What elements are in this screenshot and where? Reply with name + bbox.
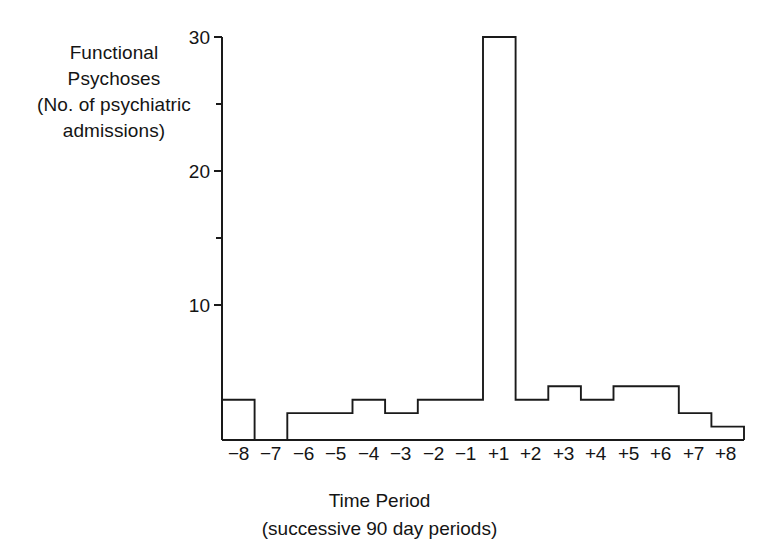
histogram-step-outline (222, 37, 744, 440)
x-axis-title: Time Period (successive 90 day periods) (0, 487, 759, 543)
x-tick-label-4: −4 (352, 443, 385, 465)
x-axis-title-line-2: (successive 90 day periods) (0, 515, 759, 543)
x-tick-label-5: −3 (384, 443, 417, 465)
x-tick-label-0: −8 (222, 443, 255, 465)
x-tick-label-11: +4 (579, 443, 612, 465)
x-tick-label-9: +2 (514, 443, 547, 465)
y-tick-label-20: 20 (150, 161, 210, 183)
figure-root: Functional Psychoses (No. of psychiatric… (0, 0, 759, 556)
y-axis-title-line-4: admissions) (18, 118, 210, 144)
x-tick-label-10: +3 (547, 443, 580, 465)
x-tick-label-1: −7 (254, 443, 287, 465)
x-tick-label-2: −6 (287, 443, 320, 465)
x-tick-label-3: −5 (319, 443, 352, 465)
y-axis-title-line-3: (No. of psychiatric (18, 92, 210, 118)
x-tick-label-12: +5 (612, 443, 645, 465)
x-axis-title-line-1: Time Period (0, 487, 759, 515)
x-tick-label-13: +6 (644, 443, 677, 465)
y-tick-label-30: 30 (150, 27, 210, 49)
x-tick-label-14: +7 (677, 443, 710, 465)
x-tick-label-8: +1 (482, 443, 515, 465)
y-axis-title: Functional Psychoses (No. of psychiatric… (18, 40, 210, 144)
x-tick-label-6: −2 (417, 443, 450, 465)
x-tick-label-15: +8 (709, 443, 742, 465)
y-axis-title-line-2: Psychoses (18, 66, 210, 92)
x-tick-label-7: −1 (449, 443, 482, 465)
y-axis (214, 37, 222, 440)
y-tick-label-10: 10 (150, 295, 210, 317)
